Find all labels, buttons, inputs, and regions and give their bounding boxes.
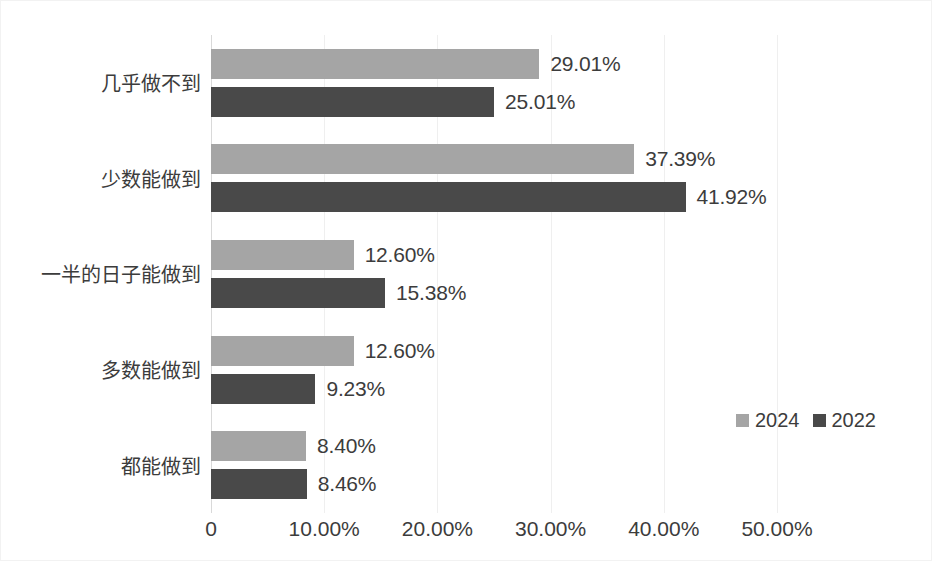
- category-group: 一半的日子能做到12.60%15.38%: [211, 226, 777, 322]
- x-axis-tick-labels: 010.00%20.00%30.00%40.00%50.00%: [211, 517, 777, 557]
- bar-pair: 12.60%9.23%: [211, 336, 777, 404]
- bar-row: 8.40%: [211, 431, 777, 461]
- bar-2022-3[interactable]: [211, 278, 385, 308]
- bar-value-label: 8.46%: [318, 472, 377, 496]
- bar-value-label: 8.40%: [317, 434, 376, 458]
- bar-row: 29.01%: [211, 49, 777, 79]
- bar-row: 8.46%: [211, 469, 777, 499]
- category-group: 几乎做不到29.01%25.01%: [211, 35, 777, 131]
- bar-2024-3[interactable]: [211, 240, 354, 270]
- bar-row: 12.60%: [211, 240, 777, 270]
- bar-value-label: 37.39%: [645, 147, 715, 171]
- category-axis-label: 一半的日子能做到: [6, 226, 201, 322]
- legend-label: 2024: [755, 409, 800, 432]
- bar-value-label: 25.01%: [505, 90, 575, 114]
- bar-2022-4[interactable]: [211, 374, 315, 404]
- bar-value-label: 29.01%: [550, 52, 620, 76]
- bar-2022-2[interactable]: [211, 182, 686, 212]
- bar-pair: 8.40%8.46%: [211, 431, 777, 499]
- bar-pair: 29.01%25.01%: [211, 49, 777, 117]
- category-group: 多数能做到12.60%9.23%: [211, 322, 777, 418]
- bar-value-label: 12.60%: [365, 339, 435, 363]
- x-axis-tick-label: 20.00%: [402, 517, 473, 541]
- bar-row: 41.92%: [211, 182, 777, 212]
- bar-row: 12.60%: [211, 336, 777, 366]
- bar-2024-4[interactable]: [211, 336, 354, 366]
- bar-pair: 37.39%41.92%: [211, 144, 777, 212]
- bar-value-label: 15.38%: [396, 281, 466, 305]
- category-axis-label: 都能做到: [6, 417, 201, 513]
- legend-swatch-icon: [736, 414, 749, 427]
- legend-item-2024[interactable]: 2024: [736, 409, 800, 432]
- bar-row: 25.01%: [211, 87, 777, 117]
- bar-pair: 12.60%15.38%: [211, 240, 777, 308]
- gridline: [777, 35, 778, 513]
- category-group: 都能做到8.40%8.46%: [211, 417, 777, 513]
- bar-2024-2[interactable]: [211, 144, 634, 174]
- legend-label: 2022: [832, 409, 877, 432]
- x-axis-tick-label: 40.00%: [628, 517, 699, 541]
- bar-row: 37.39%: [211, 144, 777, 174]
- bar-2024-5[interactable]: [211, 431, 306, 461]
- category-group: 少数能做到37.39%41.92%: [211, 131, 777, 227]
- category-axis-label: 少数能做到: [6, 131, 201, 227]
- bar-value-label: 41.92%: [697, 185, 767, 209]
- bar-2024-1[interactable]: [211, 49, 539, 79]
- category-axis-label: 多数能做到: [6, 322, 201, 418]
- bar-row: 15.38%: [211, 278, 777, 308]
- chart-legend: 20242022: [736, 409, 876, 432]
- bar-2022-1[interactable]: [211, 87, 494, 117]
- plot-area: 几乎做不到29.01%25.01%少数能做到37.39%41.92%一半的日子能…: [211, 35, 777, 513]
- x-axis-tick-label: 30.00%: [515, 517, 586, 541]
- x-axis-tick-label: 50.00%: [741, 517, 812, 541]
- legend-swatch-icon: [813, 414, 826, 427]
- legend-item-2022[interactable]: 2022: [813, 409, 877, 432]
- category-axis-label: 几乎做不到: [6, 35, 201, 131]
- bar-chart: 几乎做不到29.01%25.01%少数能做到37.39%41.92%一半的日子能…: [0, 0, 932, 561]
- x-axis-tick-label: 10.00%: [289, 517, 360, 541]
- bar-row: 9.23%: [211, 374, 777, 404]
- bar-value-label: 9.23%: [326, 377, 385, 401]
- bar-value-label: 12.60%: [365, 243, 435, 267]
- x-axis-tick-label: 0: [205, 517, 217, 541]
- bar-2022-5[interactable]: [211, 469, 307, 499]
